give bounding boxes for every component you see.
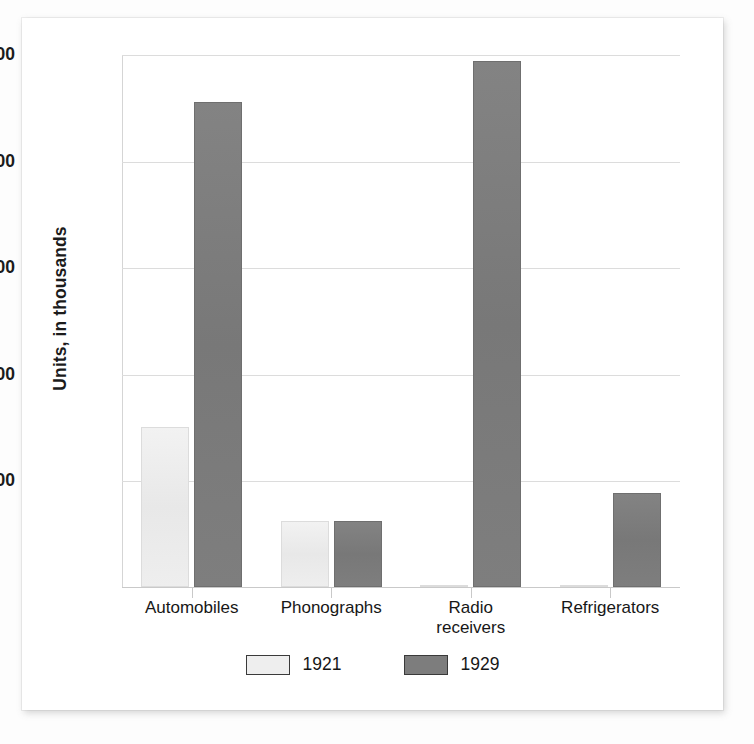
legend-label-1921: 1921 bbox=[303, 654, 342, 675]
x-axis-tick bbox=[331, 588, 332, 598]
legend-swatch-1929-icon bbox=[404, 655, 448, 675]
y-axis-tick-label: 2,000 bbox=[0, 364, 15, 385]
y-axis-line bbox=[122, 55, 123, 588]
bar-automobiles-1929[interactable] bbox=[194, 102, 242, 587]
y-axis-title: Units, in thousands bbox=[50, 179, 71, 439]
bar-automobiles-1921[interactable] bbox=[141, 427, 189, 587]
category-label-line: receivers bbox=[371, 618, 571, 638]
bar-chart: Units, in thousands 1921 1929 1,0002,000… bbox=[22, 18, 723, 710]
chart-page: Units, in thousands 1921 1929 1,0002,000… bbox=[0, 0, 754, 744]
bar-phonographs-1921[interactable] bbox=[281, 521, 329, 587]
bar-radio-receivers-1929[interactable] bbox=[473, 61, 521, 587]
chart-card: Units, in thousands 1921 1929 1,0002,000… bbox=[22, 18, 723, 710]
legend-swatch-1921-icon bbox=[246, 655, 290, 675]
bar-refrigerators-1929[interactable] bbox=[613, 493, 661, 587]
legend-item-1921[interactable]: 1921 bbox=[246, 654, 342, 675]
bar-radio-receivers-1921[interactable] bbox=[420, 585, 468, 587]
legend-item-1929[interactable]: 1929 bbox=[404, 654, 500, 675]
y-axis-tick-label: 3,000 bbox=[0, 257, 15, 278]
plot-area bbox=[122, 55, 680, 588]
y-axis-tick-label: 5,000 bbox=[0, 44, 15, 65]
x-axis-category-label: Refrigerators bbox=[510, 598, 710, 618]
x-axis-tick bbox=[192, 588, 193, 598]
y-axis-tick-label: 1,000 bbox=[0, 470, 15, 491]
chart-legend: 1921 1929 bbox=[22, 654, 723, 675]
x-axis-tick bbox=[610, 588, 611, 598]
x-axis-line bbox=[122, 587, 680, 588]
category-label-line: Refrigerators bbox=[510, 598, 710, 618]
gridline bbox=[122, 55, 680, 56]
bar-refrigerators-1921[interactable] bbox=[560, 585, 608, 587]
bar-phonographs-1929[interactable] bbox=[334, 521, 382, 587]
legend-label-1929: 1929 bbox=[461, 654, 500, 675]
x-axis-tick bbox=[471, 588, 472, 598]
y-axis-tick-label: 4,000 bbox=[0, 151, 15, 172]
